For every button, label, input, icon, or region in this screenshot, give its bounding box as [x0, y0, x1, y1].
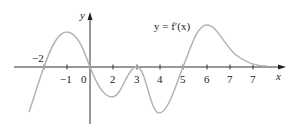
y-axis-arrow-icon — [88, 12, 93, 20]
tick-label-7: 7 — [250, 73, 256, 85]
tick-label-1: 2 — [110, 73, 116, 85]
tick-label-4: 5 — [180, 73, 186, 85]
curve-label: y = f′(x) — [154, 20, 190, 33]
y-axis-label: y — [79, 9, 85, 21]
x-axis-arrow-icon — [278, 65, 286, 70]
tick-label-neg2: −2 — [32, 52, 44, 64]
tick-label-neg1: −1 — [60, 73, 72, 85]
tick-label-6: 7 — [227, 73, 233, 85]
tick-label-0: 0 — [81, 73, 87, 85]
tick-label-5: 6 — [204, 73, 210, 85]
graph-of-f-prime: −2 −1 0 2 3 4 5 6 7 7 x y y = f′(x) — [0, 0, 292, 129]
x-axis-label: x — [275, 70, 281, 82]
f-prime-curve — [29, 25, 267, 113]
tick-label-2: 3 — [134, 73, 140, 85]
tick-label-3: 4 — [157, 73, 163, 85]
